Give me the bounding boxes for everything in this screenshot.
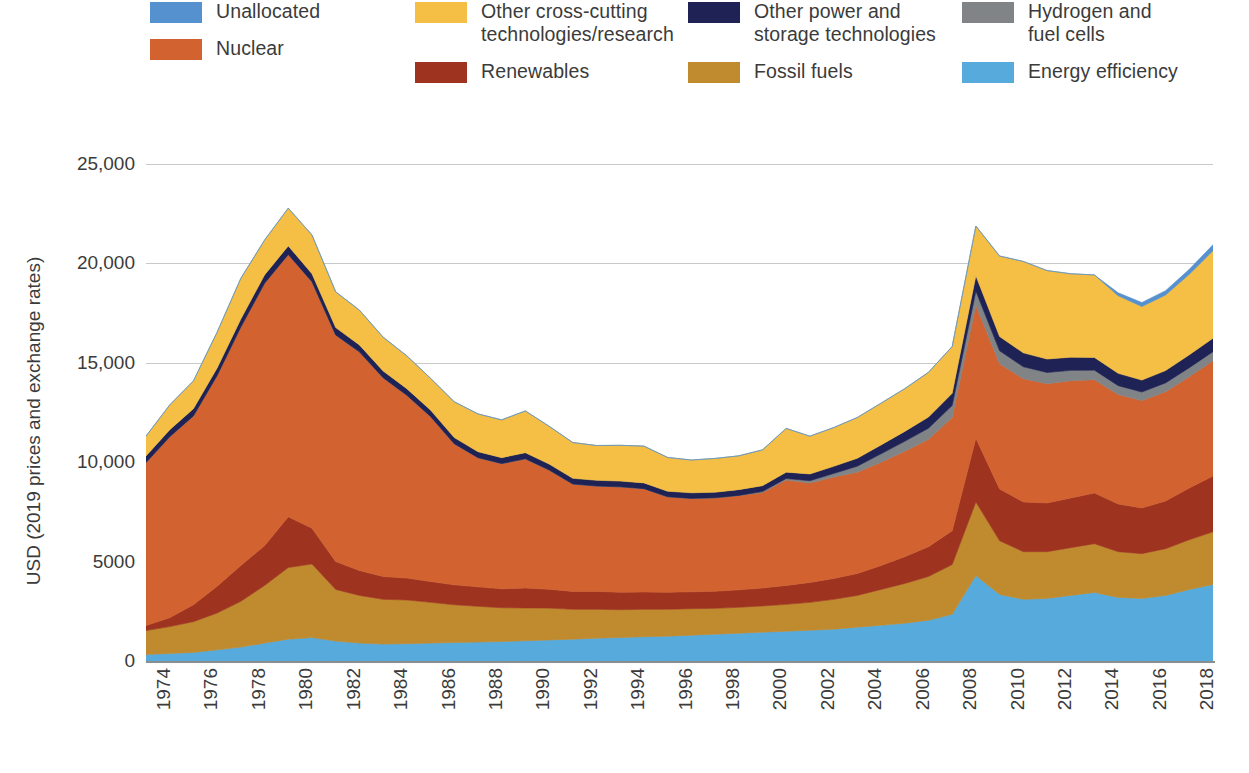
legend-label-energy-efficiency: Energy efficiency (1028, 60, 1178, 83)
legend-swatch-fossil-fuels (688, 62, 740, 83)
y-axis-title: USD (2019 prices and exchange rates) (23, 201, 45, 641)
legend-swatch-nuclear (150, 39, 202, 60)
x-axis-tick-label: 2006 (912, 668, 934, 710)
legend-swatch-renewables (415, 62, 467, 83)
legend-item-other-power-storage[interactable]: Other power and storage technologies (688, 0, 936, 46)
legend-swatch-unallocated (150, 2, 202, 23)
chart-figure: Unallocated Nuclear Other cross-cutting … (0, 0, 1249, 773)
x-axis-tick-label: 1982 (343, 668, 365, 710)
legend-swatch-other-cross-cutting (415, 2, 467, 23)
x-axis-tick-label: 2014 (1101, 668, 1123, 710)
legend-label-renewables: Renewables (481, 60, 589, 83)
x-axis-tick-label: 2000 (769, 668, 791, 710)
x-axis-tick-label: 2016 (1149, 668, 1171, 710)
legend-item-hydrogen-fuel-cells[interactable]: Hydrogen and fuel cells (962, 0, 1178, 46)
chart-legend: Unallocated Nuclear Other cross-cutting … (0, 0, 1249, 132)
legend-label-nuclear: Nuclear (216, 37, 284, 60)
x-axis-tick-label: 1980 (295, 668, 317, 710)
legend-item-fossil-fuels[interactable]: Fossil fuels (688, 60, 936, 83)
x-axis-line (146, 661, 1215, 663)
legend-column-3: Other power and storage technologies Fos… (688, 0, 936, 97)
x-axis-tick-label: 1976 (200, 668, 222, 710)
x-axis-tick-label: 1988 (485, 668, 507, 710)
x-axis-tick-label: 2018 (1196, 668, 1218, 710)
legend-item-other-cross-cutting[interactable]: Other cross-cutting technologies/researc… (415, 0, 674, 46)
x-axis-tick-label: 1984 (390, 668, 412, 710)
legend-swatch-energy-efficiency (962, 62, 1014, 83)
x-axis-tick-label: 2010 (1007, 668, 1029, 710)
x-axis-tick-label: 1978 (248, 668, 270, 710)
x-axis-tick-label: 2008 (959, 668, 981, 710)
x-axis-tick-label: 1990 (532, 668, 554, 710)
x-axis-tick-label: 2002 (817, 668, 839, 710)
legend-item-unallocated[interactable]: Unallocated (150, 0, 320, 23)
legend-swatch-other-power-storage (688, 2, 740, 23)
legend-label-unallocated: Unallocated (216, 0, 320, 23)
y-axis-title-wrapper: USD (2019 prices and exchange rates) (0, 110, 40, 670)
legend-item-renewables[interactable]: Renewables (415, 60, 674, 83)
x-axis-tick-label: 1994 (627, 668, 649, 710)
x-axis-tick-label: 2004 (864, 668, 886, 710)
x-axis-tick-label: 1998 (722, 668, 744, 710)
legend-column-4: Hydrogen and fuel cells Energy efficienc… (962, 0, 1178, 97)
legend-label-fossil-fuels: Fossil fuels (754, 60, 853, 83)
legend-column-2: Other cross-cutting technologies/researc… (415, 0, 674, 97)
x-axis-tick-label: 1992 (580, 668, 602, 710)
x-axis-ticks: 1974197619781980198219841986198819901992… (0, 668, 1249, 773)
legend-item-energy-efficiency[interactable]: Energy efficiency (962, 60, 1178, 83)
x-axis-tick-label: 1986 (438, 668, 460, 710)
legend-label-other-power-storage: Other power and storage technologies (754, 0, 936, 46)
x-axis-tick-label: 1974 (153, 668, 175, 710)
legend-item-nuclear[interactable]: Nuclear (150, 37, 320, 60)
legend-column-1: Unallocated Nuclear (150, 0, 320, 74)
legend-swatch-hydrogen-fuel-cells (962, 2, 1014, 23)
plot-area (146, 164, 1213, 661)
x-axis-tick-label: 2012 (1054, 668, 1076, 710)
stacked-area-chart (146, 164, 1213, 661)
legend-label-hydrogen-fuel-cells: Hydrogen and fuel cells (1028, 0, 1152, 46)
x-axis-tick-label: 1996 (675, 668, 697, 710)
legend-label-other-cross-cutting: Other cross-cutting technologies/researc… (481, 0, 674, 46)
